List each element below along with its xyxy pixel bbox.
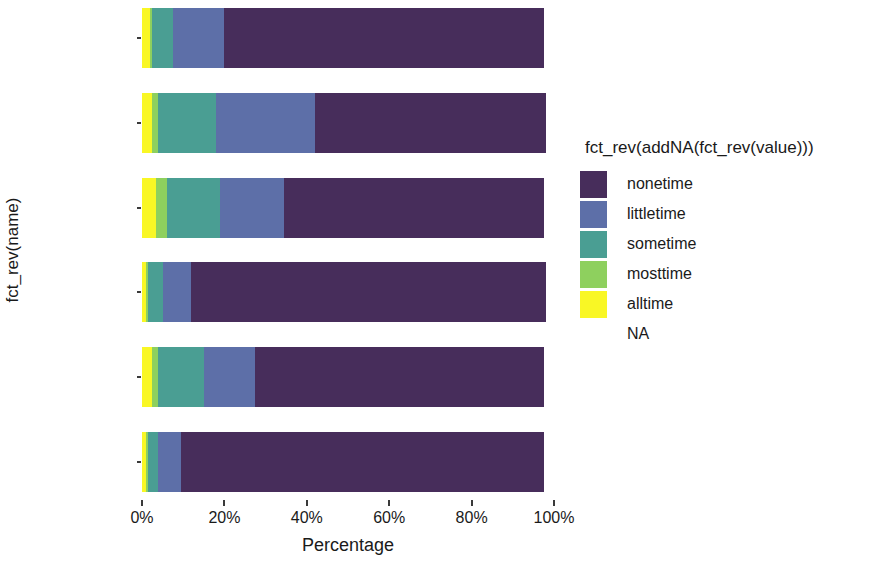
legend-label-mosttime: mosttime — [627, 265, 692, 283]
bar-segment-littletime — [220, 178, 284, 238]
x-tick-label-20: 20% — [208, 509, 240, 527]
bar-segment-littletime — [216, 93, 315, 153]
x-tick-label-0: 0% — [130, 509, 153, 527]
x-tick-mark — [471, 500, 473, 506]
legend-item-littletime: littletime — [580, 199, 870, 229]
bar-segment-sometime — [158, 93, 216, 153]
bar-segment-littletime — [158, 432, 181, 492]
bar-segment-nonetime — [191, 262, 545, 322]
bar-segment-na — [544, 347, 554, 407]
bar-segment-nonetime — [224, 8, 543, 68]
bar-row — [142, 347, 554, 407]
legend-swatch-sometime — [580, 231, 607, 258]
bar-segment-alltime — [142, 347, 152, 407]
plot-panel — [142, 8, 554, 492]
bar-segment-na — [546, 93, 554, 153]
legend-swatch-na — [580, 321, 607, 348]
legend-items: nonetimelittletimesometimemosttimealltim… — [580, 169, 870, 349]
stacked-bar — [142, 178, 554, 238]
stacked-bar — [142, 93, 554, 153]
y-tick-mark — [137, 461, 141, 463]
legend-item-na: NA — [580, 319, 870, 349]
legend-swatch-alltime — [580, 291, 607, 318]
bar-segment-na — [544, 8, 554, 68]
legend-label-na: NA — [627, 325, 649, 343]
legend-swatch-nonetime — [580, 171, 607, 198]
x-axis: 0%20%40%60%80%100% — [142, 500, 554, 534]
chart-figure: fct_rev(name) k6_sadk6_nervousk6_restles… — [0, 0, 878, 566]
legend-label-littletime: littletime — [627, 205, 686, 223]
legend-swatch-littletime — [580, 201, 607, 228]
legend-title: fct_rev(addNA(fct_rev(value))) — [585, 138, 870, 158]
legend-swatch-mosttime — [580, 261, 607, 288]
x-tick-mark — [223, 500, 225, 506]
stacked-bar — [142, 432, 554, 492]
y-tick-mark — [137, 122, 141, 124]
bar-segment-alltime — [142, 93, 152, 153]
bar-segment-na — [544, 178, 554, 238]
x-tick-label-80: 80% — [456, 509, 488, 527]
legend-label-alltime: alltime — [627, 295, 673, 313]
x-tick-label-100: 100% — [534, 509, 575, 527]
stacked-bar — [142, 262, 554, 322]
bar-segment-nonetime — [255, 347, 543, 407]
y-tick-mark — [137, 37, 141, 39]
legend-item-sometime: sometime — [580, 229, 870, 259]
y-tick-mark — [137, 207, 141, 209]
legend-item-mosttime: mosttime — [580, 259, 870, 289]
x-tick-mark — [141, 500, 143, 506]
bar-segment-sometime — [148, 432, 158, 492]
bar-segment-sometime — [167, 178, 221, 238]
legend-item-alltime: alltime — [580, 289, 870, 319]
x-axis-title: Percentage — [142, 535, 554, 556]
legend-item-nonetime: nonetime — [580, 169, 870, 199]
x-tick-mark — [388, 500, 390, 506]
y-axis-title: fct_rev(name) — [0, 0, 26, 500]
bar-segment-littletime — [163, 262, 192, 322]
bar-segment-sometime — [148, 262, 162, 322]
stacked-bar — [142, 347, 554, 407]
y-tick-mark — [137, 376, 141, 378]
bar-segment-littletime — [173, 8, 225, 68]
bar-segment-nonetime — [181, 432, 544, 492]
y-tick-mark — [137, 291, 141, 293]
y-axis-title-text: fct_rev(name) — [3, 198, 23, 303]
bar-row — [142, 93, 554, 153]
bar-segment-littletime — [204, 347, 256, 407]
bar-segment-sometime — [152, 8, 173, 68]
bar-segment-sometime — [158, 347, 203, 407]
bar-segment-mosttime — [156, 178, 166, 238]
bar-segment-alltime — [142, 178, 156, 238]
x-tick-label-40: 40% — [291, 509, 323, 527]
bar-segment-alltime — [142, 8, 150, 68]
legend: fct_rev(addNA(fct_rev(value))) nonetimel… — [580, 138, 870, 349]
bar-row — [142, 8, 554, 68]
bar-segment-nonetime — [284, 178, 544, 238]
bar-row — [142, 178, 554, 238]
bar-row — [142, 432, 554, 492]
legend-label-nonetime: nonetime — [627, 175, 693, 193]
bar-row — [142, 262, 554, 322]
legend-label-sometime: sometime — [627, 235, 696, 253]
bar-segment-na — [544, 432, 554, 492]
x-tick-mark — [553, 500, 555, 506]
bar-segment-nonetime — [315, 93, 546, 153]
bar-segment-na — [546, 262, 554, 322]
x-tick-mark — [306, 500, 308, 506]
x-tick-label-60: 60% — [373, 509, 405, 527]
stacked-bar — [142, 8, 554, 68]
